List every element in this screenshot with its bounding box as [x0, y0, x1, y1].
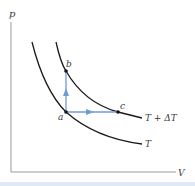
- pv-diagram: p V a b c T + ΔT T: [0, 0, 195, 186]
- isotherm-high-label: T + ΔT: [145, 113, 178, 123]
- arrow-right-icon: [86, 109, 94, 115]
- diagram-svg: p V a b c T + ΔT T: [0, 0, 195, 186]
- point-a-label: a: [58, 112, 63, 122]
- x-axis-label: V: [178, 168, 186, 178]
- point-b-label: b: [66, 59, 72, 69]
- isotherm-high-curve: [56, 42, 142, 118]
- arrow-up-icon: [63, 88, 69, 96]
- bottom-band: [0, 182, 195, 186]
- point-c-label: c: [120, 101, 125, 111]
- isotherm-low-curve: [32, 42, 142, 144]
- isotherm-low-label: T: [145, 139, 152, 149]
- point-b: [64, 69, 68, 73]
- y-axis-label: p: [9, 8, 16, 19]
- point-a: [64, 110, 68, 114]
